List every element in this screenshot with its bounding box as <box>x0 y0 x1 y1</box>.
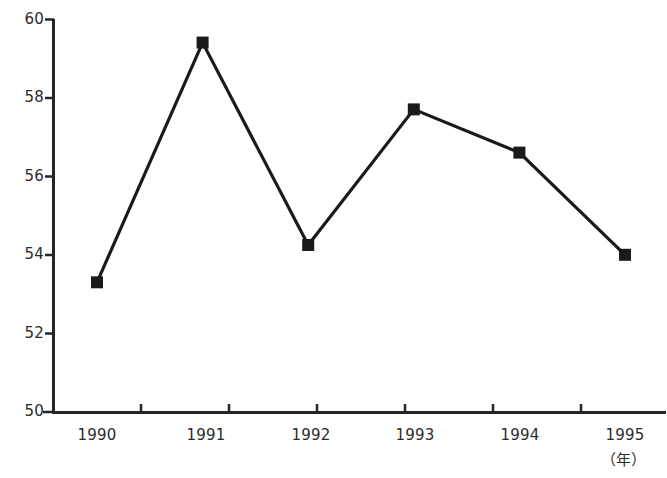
plot-background <box>0 0 667 478</box>
data-point-1992 <box>302 239 314 251</box>
data-point-1994 <box>513 147 525 159</box>
x-axis-label-1992: 1992 <box>281 428 341 443</box>
y-axis-label-58: 58 <box>4 90 44 105</box>
data-point-1993 <box>408 103 420 115</box>
y-axis-label-50: 50 <box>4 404 44 419</box>
x-axis-label-1995: 1995 <box>595 428 655 443</box>
data-point-1990 <box>91 276 103 288</box>
x-axis-label-1990: 1990 <box>67 428 127 443</box>
y-axis-label-54: 54 <box>4 247 44 262</box>
x-axis-label-1993: 1993 <box>385 428 445 443</box>
chart-figure: 60 58 56 54 52 50 1990 1991 1992 1993 19… <box>0 0 667 478</box>
y-axis-label-60: 60 <box>4 12 44 27</box>
data-point-1991 <box>197 37 209 49</box>
data-point-1995 <box>619 249 631 261</box>
y-axis-label-52: 52 <box>4 326 44 341</box>
line-chart-plot <box>0 0 667 478</box>
x-axis-label-1991: 1991 <box>176 428 236 443</box>
x-axis-unit-label: （年） <box>583 452 663 468</box>
x-axis-label-1994: 1994 <box>490 428 550 443</box>
y-axis-label-56: 56 <box>4 169 44 184</box>
